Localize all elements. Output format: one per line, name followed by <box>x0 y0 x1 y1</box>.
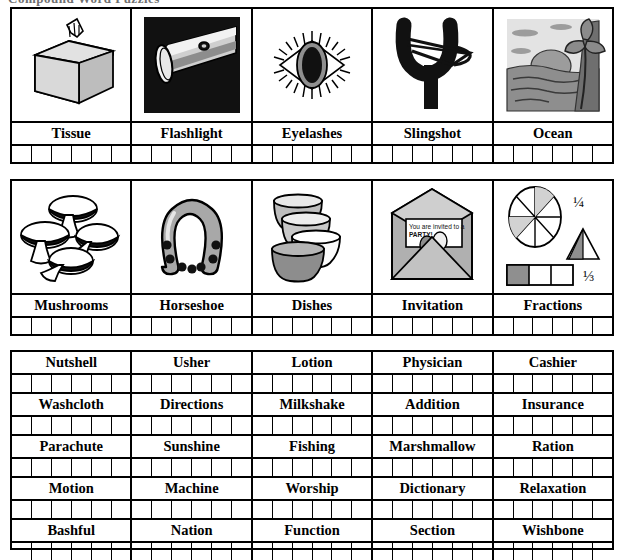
picture-block-row-1: Tissue Flashlight Eyelashes Slingshot Oc… <box>10 7 614 164</box>
answer-boxes[interactable] <box>373 459 491 476</box>
mushrooms-icon <box>17 183 125 291</box>
answer-box-row-5 <box>12 457 612 476</box>
answer-boxes[interactable] <box>132 543 250 560</box>
word-label: Washcloth <box>12 394 130 415</box>
picture-cell-eyelashes <box>253 9 373 121</box>
answer-boxes[interactable] <box>494 459 612 476</box>
word-label: Function <box>253 520 371 541</box>
word-label: Directions <box>132 394 250 415</box>
answer-box-row-2 <box>12 316 612 335</box>
answer-boxes[interactable] <box>494 146 612 163</box>
word-label: Dictionary <box>373 478 491 499</box>
eye-with-lashes-icon <box>258 11 366 119</box>
fraction-quarter-label: ¼ <box>573 194 584 210</box>
word-label: Bashful <box>12 520 130 541</box>
flashlight-icon <box>138 11 246 119</box>
word-label: Usher <box>132 352 250 373</box>
answer-boxes[interactable] <box>12 146 130 163</box>
word-block: Nutshell Usher Lotion Physician Cashier … <box>10 350 614 550</box>
word-label: Fishing <box>253 436 371 457</box>
word-label: Machine <box>132 478 250 499</box>
answer-box-row-1 <box>12 144 612 163</box>
answer-boxes[interactable] <box>132 375 250 392</box>
answer-boxes[interactable] <box>494 417 612 434</box>
answer-boxes[interactable] <box>373 375 491 392</box>
picture-block-row-2: You are invited to a PARTY! <box>10 179 614 336</box>
answer-boxes[interactable] <box>253 417 371 434</box>
word-label: Marshmallow <box>373 436 491 457</box>
word-label: Dishes <box>253 295 371 316</box>
word-label: Invitation <box>373 295 491 316</box>
horseshoe-icon <box>138 183 246 291</box>
answer-boxes[interactable] <box>253 146 371 163</box>
word-label: Nutshell <box>12 352 130 373</box>
answer-boxes[interactable] <box>253 459 371 476</box>
answer-boxes[interactable] <box>373 501 491 518</box>
answer-boxes[interactable] <box>132 501 250 518</box>
answer-box-row-4 <box>12 415 612 434</box>
word-label: Insurance <box>494 394 612 415</box>
picture-cell-tissue <box>12 9 132 121</box>
answer-boxes[interactable] <box>132 459 250 476</box>
answer-box-row-7 <box>12 541 612 560</box>
answer-boxes[interactable] <box>132 146 250 163</box>
word-row-5: Parachute Sunshine Fishing Marshmallow R… <box>12 434 612 457</box>
word-label: Nation <box>132 520 250 541</box>
fractions-diagram-icon: ¼ ⅓ <box>499 183 607 291</box>
answer-boxes[interactable] <box>12 417 130 434</box>
picture-word-row-2: Mushrooms Horseshoe Dishes Invitation Fr… <box>12 293 612 316</box>
answer-box-row-3 <box>12 373 612 392</box>
word-row-6: Motion Machine Worship Dictionary Relaxa… <box>12 476 612 499</box>
word-label: Sunshine <box>132 436 250 457</box>
answer-boxes[interactable] <box>253 375 371 392</box>
stacked-bowls-icon <box>258 183 366 291</box>
worksheet-header: Compound Word Puzzles <box>0 0 624 7</box>
answer-boxes[interactable] <box>12 318 130 335</box>
word-row-3: Nutshell Usher Lotion Physician Cashier <box>12 352 612 373</box>
answer-boxes[interactable] <box>132 318 250 335</box>
answer-boxes[interactable] <box>253 318 371 335</box>
answer-boxes[interactable] <box>12 375 130 392</box>
word-row-7: Bashful Nation Function Section Wishbone <box>12 518 612 541</box>
picture-cell-horseshoe <box>132 181 252 293</box>
answer-boxes[interactable] <box>12 501 130 518</box>
answer-boxes[interactable] <box>494 375 612 392</box>
word-label: Lotion <box>253 352 371 373</box>
picture-cell-mushrooms <box>12 181 132 293</box>
answer-boxes[interactable] <box>132 417 250 434</box>
word-label: Horseshoe <box>132 295 250 316</box>
word-label: Physician <box>373 352 491 373</box>
word-label: Worship <box>253 478 371 499</box>
answer-boxes[interactable] <box>494 318 612 335</box>
word-label: Addition <box>373 394 491 415</box>
worksheet-title: Compound Word Puzzles <box>8 0 160 7</box>
answer-boxes[interactable] <box>494 543 612 560</box>
picture-cell-dishes <box>253 181 373 293</box>
word-label: Motion <box>12 478 130 499</box>
answer-boxes[interactable] <box>253 501 371 518</box>
answer-boxes[interactable] <box>373 417 491 434</box>
word-label: Tissue <box>12 123 130 144</box>
invitation-card-line1: You are invited to a <box>409 223 465 230</box>
answer-boxes[interactable] <box>253 543 371 560</box>
answer-boxes[interactable] <box>373 318 491 335</box>
answer-boxes[interactable] <box>373 543 491 560</box>
answer-boxes[interactable] <box>12 543 130 560</box>
open-envelope-invitation-icon: You are invited to a PARTY! <box>378 183 486 291</box>
word-label: Parachute <box>12 436 130 457</box>
word-label: Section <box>373 520 491 541</box>
word-label: Flashlight <box>132 123 250 144</box>
word-label: Ration <box>494 436 612 457</box>
answer-boxes[interactable] <box>373 146 491 163</box>
answer-box-row-6 <box>12 499 612 518</box>
picture-word-row-1: Tissue Flashlight Eyelashes Slingshot Oc… <box>12 121 612 144</box>
word-label: Eyelashes <box>253 123 371 144</box>
answer-boxes[interactable] <box>12 459 130 476</box>
answer-boxes[interactable] <box>494 501 612 518</box>
word-label: Ocean <box>494 123 612 144</box>
slingshot-icon <box>378 11 486 119</box>
picture-cell-fractions: ¼ ⅓ <box>494 181 612 293</box>
picture-cell-ocean <box>494 9 612 121</box>
word-label: Fractions <box>494 295 612 316</box>
